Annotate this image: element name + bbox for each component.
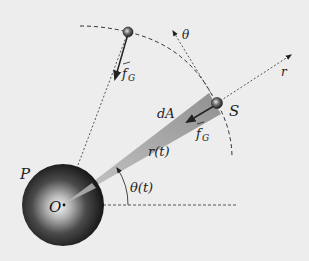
satellite-s	[212, 98, 223, 109]
force-label-s: f G	[195, 122, 209, 143]
radius-label: r(t)	[148, 144, 170, 159]
svg-text:G: G	[128, 73, 135, 83]
satellite-top	[123, 27, 133, 37]
force-label-top: f G	[121, 62, 135, 83]
origin-label: O	[49, 198, 61, 216]
satellite-label: S	[229, 102, 239, 120]
r-direction-arrow	[217, 55, 291, 103]
svg-text:G: G	[202, 133, 209, 143]
r-axis-label: r	[281, 65, 288, 79]
theta-axis-label: θ	[182, 28, 190, 42]
theta-direction-arrow	[173, 31, 212, 95]
planet-label: P	[19, 165, 31, 183]
angle-arc	[117, 168, 128, 205]
orbit-diagram: P O S dA r(t) θ(t) θ r f G f G	[0, 0, 309, 261]
angle-label: θ(t)	[130, 180, 153, 195]
area-label: dA	[157, 106, 175, 121]
origin-point	[63, 204, 66, 207]
